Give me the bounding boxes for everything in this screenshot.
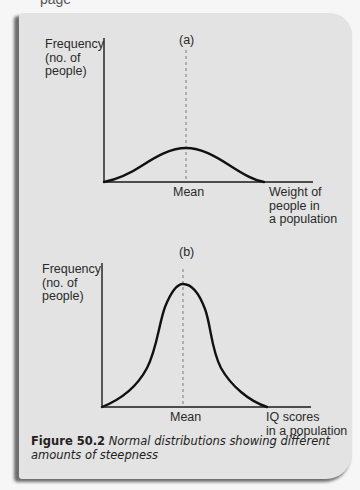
panel-a-curve <box>104 148 264 182</box>
panel-a-plot <box>104 38 313 182</box>
panel-b-curve <box>102 284 267 407</box>
figure-card: (a) Frequency (no. of people) Mean Weigh… <box>19 13 352 479</box>
figure-caption: Figure 50.2 Normal distributions showing… <box>31 434 341 462</box>
panel-b-plot <box>102 263 311 407</box>
previous-page-text-fragment: page <box>40 0 71 7</box>
figure-number: Figure 50.2 <box>31 434 105 448</box>
figure-plots <box>19 13 352 479</box>
